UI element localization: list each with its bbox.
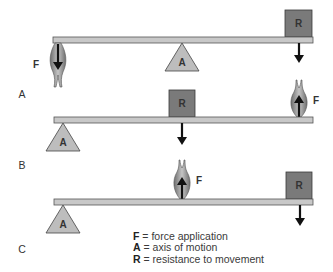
resistance-arrow-down-icon [294,43,304,63]
resistance-label-c: R [295,180,303,191]
legend-key: A [133,241,141,253]
legend-key: F [133,230,139,242]
axis-label-c: A [59,219,66,230]
panel-label-a: A [18,88,25,100]
lever-beam-a [53,37,313,43]
legend-key: R [133,253,141,265]
force-label-b: F [313,95,319,106]
legend-text: = axis of motion [144,241,218,253]
legend-text: = resistance to movement [144,253,265,265]
resistance-label-b: R [178,98,186,109]
lever-panel-b: R F A B [18,80,319,171]
panel-label-c: C [18,243,26,255]
force-label-c: F [196,175,202,186]
lever-beam-b [54,117,313,123]
resistance-label-a: R [295,18,303,29]
legend: F = force application A = axis of motion… [133,231,264,265]
resistance-arrow-down-icon [295,205,305,226]
resistance-arrow-down-icon [177,123,187,145]
panel-label-b: B [18,159,25,171]
lever-beam-c [54,199,313,205]
muscle-force-a [50,43,66,87]
legend-item-resistance: R = resistance to movement [133,254,264,265]
fulcrum-b: A [46,123,80,151]
fulcrum-c: A [46,205,80,233]
axis-label-a: A [178,57,185,68]
fulcrum-a: A [165,43,199,71]
axis-label-b: A [59,137,66,148]
muscle-force-c [174,160,190,199]
muscle-force-b [291,80,307,117]
resistance-weight-b: R [169,90,195,117]
legend-text: = force application [142,230,228,242]
resistance-weight-a: R [285,10,312,37]
lever-panel-a: R A F A [18,10,313,100]
resistance-weight-c: R [286,172,312,199]
force-label-a: F [33,59,39,70]
